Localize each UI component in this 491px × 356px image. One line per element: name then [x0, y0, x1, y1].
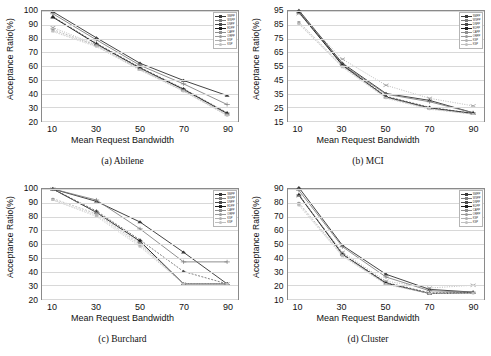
y-tick-label: 70 — [29, 225, 38, 235]
series-line — [53, 31, 227, 116]
grid-line — [288, 52, 484, 53]
x-tick-label: 30 — [91, 302, 101, 312]
legend-item: EDPP — [461, 204, 481, 208]
legend-label: WSPP — [473, 19, 481, 22]
legend-label: WSPP — [227, 19, 235, 22]
legend-item: CAPP — [461, 208, 481, 212]
grid-line — [42, 11, 238, 12]
grid-line — [288, 121, 484, 122]
legend-label: SMPP — [227, 193, 234, 196]
y-tick-label: 90 — [274, 183, 283, 193]
legend-item: KSP — [461, 43, 481, 47]
y-tick-label: 35 — [274, 89, 283, 99]
panel-caption: (a) Abilene — [0, 156, 245, 166]
grid-line — [42, 285, 238, 286]
y-tick-label: 60 — [274, 225, 283, 235]
legend-label: SMPP — [473, 15, 480, 18]
legend-item: WSPP — [461, 18, 481, 22]
series-line — [298, 204, 472, 293]
legend-label: CAPP — [227, 209, 234, 212]
legend-label: KSP — [227, 221, 232, 224]
data-point-marker — [297, 205, 301, 207]
x-tick-label: 90 — [223, 302, 233, 312]
x-tick-label: 70 — [424, 302, 434, 312]
data-point-marker — [138, 246, 142, 248]
grid-line — [42, 80, 238, 81]
legend-marker-icon — [461, 15, 472, 18]
panel-mci: Acceptance Ratio(%) 152535455565758595 S… — [246, 0, 491, 178]
series-line — [53, 189, 227, 262]
data-point-marker — [181, 82, 186, 86]
legend-marker-icon — [461, 35, 472, 38]
x-tick-label: 70 — [179, 124, 189, 134]
series-line — [53, 32, 227, 116]
y-tick-label: 25 — [274, 103, 283, 113]
legend: SMPPWSPPDNPPEDPPCAPPORPPKSPKSP — [213, 12, 237, 49]
legend-label: KSP — [227, 217, 232, 220]
y-tick-label: 80 — [274, 197, 283, 207]
y-tick-label: 85 — [274, 19, 283, 29]
legend-marker-icon — [215, 31, 226, 34]
legend-label: EDPP — [473, 27, 480, 30]
legend-item: KSP — [215, 43, 235, 47]
legend-label: CAPP — [473, 31, 480, 34]
x-axis-label: Mean Request Bandwidth — [246, 135, 491, 145]
legend-marker-icon — [461, 27, 472, 30]
data-point-marker — [339, 58, 344, 61]
legend-item: KSP — [215, 39, 235, 43]
legend-marker-icon — [215, 27, 226, 30]
legend-item: EDPP — [215, 26, 235, 30]
legend-item: SMPP — [461, 192, 481, 196]
x-tick-label: 90 — [468, 302, 478, 312]
y-tick-label: 30 — [29, 103, 38, 113]
legend-label: KSP — [473, 217, 478, 220]
legend-marker-icon — [215, 23, 226, 26]
grid-line — [288, 244, 484, 245]
legend-marker-icon — [461, 217, 472, 220]
data-point-marker — [95, 46, 99, 48]
figure-grid: Acceptance Ratio(%) 2030405060708090100 … — [0, 0, 491, 356]
grid-line — [288, 272, 484, 273]
y-tick-label: 60 — [29, 239, 38, 249]
legend-marker-icon — [215, 15, 226, 18]
x-tick-label: 30 — [336, 302, 346, 312]
legend-item: CAPP — [215, 208, 235, 212]
grid-line — [288, 258, 484, 259]
x-tick-label: 50 — [380, 124, 390, 134]
legend-label: ORPP — [227, 35, 234, 38]
legend-label: CAPP — [473, 209, 480, 212]
data-point-marker — [427, 293, 431, 295]
y-tick-label: 80 — [29, 33, 38, 43]
y-tick-label: 40 — [274, 253, 283, 263]
data-point-marker — [224, 260, 229, 264]
data-point-marker — [50, 26, 55, 29]
grid-line — [42, 244, 238, 245]
legend-item: WSPP — [215, 196, 235, 200]
legend-item: ORPP — [215, 212, 235, 216]
y-axis-ticks: 102030405060708090 — [262, 188, 286, 300]
grid-line — [42, 121, 238, 122]
y-axis-ticks: 152535455565758595 — [262, 10, 286, 122]
plot-burchard: Acceptance Ratio(%) 2030405060708090100 … — [0, 178, 245, 328]
legend-item: SMPP — [215, 14, 235, 18]
x-axis-label: Mean Request Bandwidth — [0, 135, 245, 145]
legend-label: DNPP — [473, 201, 480, 204]
grid-line — [288, 25, 484, 26]
legend-label: DNPP — [227, 201, 234, 204]
y-tick-label: 15 — [274, 117, 283, 127]
plot-area — [41, 10, 239, 122]
x-tick-label: 10 — [47, 302, 57, 312]
legend-marker-icon — [461, 19, 472, 22]
legend-marker-icon — [461, 221, 472, 224]
legend-label: EDPP — [227, 205, 234, 208]
grid-line — [42, 203, 238, 204]
grid-line — [288, 285, 484, 286]
legend-marker-icon — [215, 213, 226, 216]
legend-marker-icon — [461, 193, 472, 196]
series-line — [53, 30, 227, 115]
legend-item: WSPP — [461, 196, 481, 200]
legend-label: KSP — [227, 43, 232, 46]
legend-marker-icon — [461, 197, 472, 200]
legend-marker-icon — [215, 209, 226, 212]
legend-item: ORPP — [461, 34, 481, 38]
